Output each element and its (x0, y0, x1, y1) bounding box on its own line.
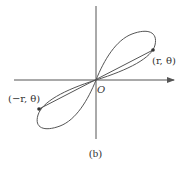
point-positive (151, 48, 155, 52)
figure-caption: (b) (89, 147, 102, 160)
origin-label: O (97, 84, 105, 95)
lobe-lower (37, 80, 96, 129)
lobe-upper (96, 31, 156, 80)
point-negative-label: (−r, θ) (8, 93, 40, 104)
point-negative (37, 107, 41, 111)
polar-diagram: (r, θ) (−r, θ) O (b) (0, 0, 188, 172)
point-positive-label: (r, θ) (152, 55, 176, 66)
